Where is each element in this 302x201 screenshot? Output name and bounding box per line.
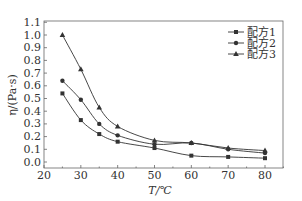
square-marker-icon [97, 132, 101, 136]
x-tick-label: 20 [37, 169, 51, 182]
square-marker-icon [60, 91, 64, 95]
series-2 [60, 79, 267, 156]
series-line [62, 35, 265, 151]
circle-marker-icon [79, 98, 83, 102]
square-marker-icon [234, 30, 238, 34]
x-tick-label: 70 [221, 169, 235, 182]
series-group [60, 32, 268, 160]
series-3 [60, 32, 268, 153]
y-tick-label: 0.6 [24, 79, 42, 92]
y-tick-label: 1.1 [24, 16, 42, 29]
y-tick-label: 0.1 [24, 143, 42, 156]
y-tick-label: 1.0 [24, 29, 42, 42]
y-tick-label: 0.4 [24, 105, 42, 118]
y-tick-label: 0.5 [24, 92, 42, 105]
x-tick-label: 80 [258, 169, 272, 182]
legend: 配方1配方2配方3 [228, 25, 276, 61]
circle-marker-icon [60, 79, 64, 83]
x-axis-label: T/℃ [148, 184, 172, 197]
circle-marker-icon [234, 41, 238, 45]
square-marker-icon [116, 140, 120, 144]
viscosity-chart: 203040506070800.00.10.20.30.40.50.60.70.… [0, 0, 302, 201]
x-tick-label: 60 [184, 169, 198, 182]
x-tick-label: 30 [74, 169, 88, 182]
square-marker-icon [226, 155, 230, 159]
square-marker-icon [153, 146, 157, 150]
y-tick-label: 0.9 [24, 41, 42, 54]
circle-marker-icon [115, 133, 119, 137]
triangle-marker-icon [233, 51, 239, 56]
y-tick-label: 0.3 [24, 117, 42, 130]
square-marker-icon [189, 154, 193, 158]
y-axis-label: η/(Pa·s) [6, 74, 19, 116]
triangle-marker-icon [96, 104, 102, 109]
legend-label: 配方3 [247, 47, 276, 61]
triangle-marker-icon [78, 66, 84, 71]
legend-item-3: 配方3 [228, 47, 276, 61]
circle-marker-icon [97, 122, 101, 126]
triangle-marker-icon [60, 32, 66, 37]
y-tick-label: 0.8 [24, 54, 42, 67]
x-tick-label: 50 [148, 169, 162, 182]
circle-marker-icon [152, 142, 156, 146]
y-tick-label: 0.7 [24, 67, 42, 80]
square-marker-icon [79, 118, 83, 122]
y-tick-label: 0.2 [24, 130, 42, 143]
x-tick-label: 40 [111, 169, 125, 182]
triangle-marker-icon [115, 123, 121, 128]
series-line [62, 81, 265, 153]
square-marker-icon [263, 156, 267, 160]
y-tick-label: 0.0 [24, 156, 42, 169]
